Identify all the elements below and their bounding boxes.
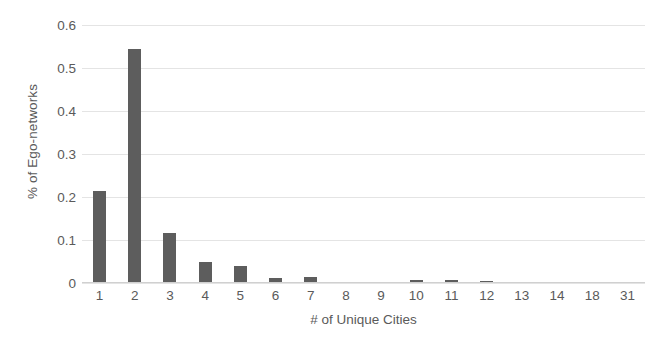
x-axis-tick-label: 8 bbox=[342, 288, 350, 303]
bar bbox=[199, 262, 212, 283]
x-axis-tick-label: 13 bbox=[514, 288, 529, 303]
x-axis-tick-label: 18 bbox=[585, 288, 600, 303]
y-axis-tick-label: 0.3 bbox=[44, 147, 76, 162]
x-axis-line bbox=[82, 282, 645, 283]
bar-series bbox=[82, 25, 645, 283]
x-axis-tick-label: 4 bbox=[201, 288, 209, 303]
x-axis-tick-label: 31 bbox=[620, 288, 635, 303]
plot-area bbox=[82, 25, 645, 283]
y-axis-tick-label: 0.1 bbox=[44, 233, 76, 248]
y-axis-tick-label: 0.5 bbox=[44, 61, 76, 76]
bar-chart: % of Ego-networks 00.10.20.30.40.50.6 12… bbox=[0, 0, 670, 347]
y-axis-tick-labels: 00.10.20.30.40.50.6 bbox=[44, 0, 76, 347]
bar bbox=[93, 191, 106, 283]
x-axis-tick-label: 12 bbox=[479, 288, 494, 303]
y-axis-tick-label: 0.6 bbox=[44, 18, 76, 33]
x-axis-tick-label: 5 bbox=[237, 288, 245, 303]
y-axis-tick-label: 0.4 bbox=[44, 104, 76, 119]
gridline bbox=[82, 283, 645, 284]
bar bbox=[234, 266, 247, 283]
y-axis-tick-label: 0 bbox=[44, 276, 76, 291]
bar bbox=[128, 49, 141, 283]
x-axis-tick-label: 10 bbox=[409, 288, 424, 303]
x-axis-title: # of Unique Cities bbox=[82, 312, 645, 327]
x-axis-tick-label: 11 bbox=[444, 288, 458, 303]
y-axis-title-label: % of Ego-networks bbox=[25, 84, 40, 199]
x-axis-tick-labels: 12345678910111213141831 bbox=[82, 288, 645, 308]
x-axis-tick-label: 3 bbox=[166, 288, 174, 303]
bar bbox=[163, 233, 176, 283]
x-axis-tick-label: 6 bbox=[272, 288, 280, 303]
y-axis-tick-label: 0.2 bbox=[44, 190, 76, 205]
x-axis-tick-label: 1 bbox=[96, 288, 104, 303]
x-axis-tick-label: 7 bbox=[307, 288, 315, 303]
x-axis-tick-label: 9 bbox=[377, 288, 385, 303]
x-axis-tick-label: 14 bbox=[550, 288, 565, 303]
y-axis-title: % of Ego-networks bbox=[21, 0, 43, 283]
x-axis-tick-label: 2 bbox=[131, 288, 139, 303]
